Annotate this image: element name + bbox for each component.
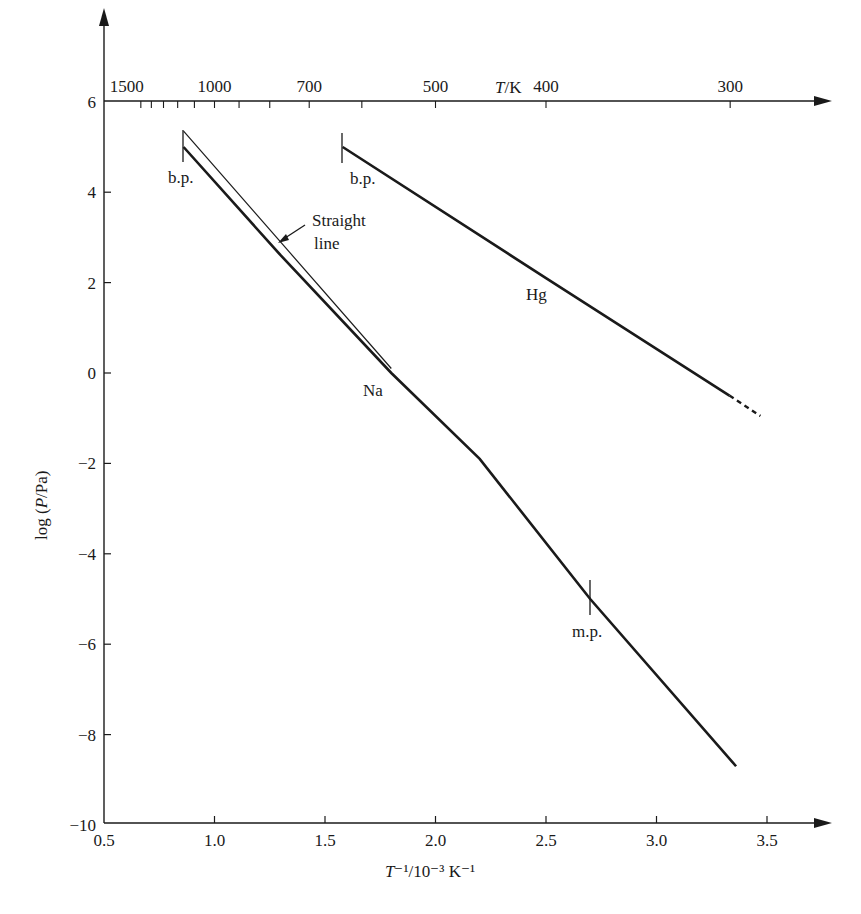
top-axis-label: T/K — [495, 78, 522, 97]
na-series-label: Na — [363, 381, 383, 400]
na-bp-label: b.p. — [168, 168, 194, 187]
top-tick-label: 300 — [717, 77, 743, 96]
top-tick-label: 400 — [533, 77, 559, 96]
vapor-pressure-chart: 6420−2−4−6−8−10 0.51.01.52.02.53.03.5 15… — [0, 0, 861, 914]
series — [184, 131, 761, 766]
x-tick-label: 0.5 — [93, 831, 114, 850]
straight-line-label-1: Straight — [312, 211, 366, 230]
x-tick-label: 2.5 — [535, 831, 556, 850]
y-tick-label: −8 — [78, 726, 96, 745]
x-tick-label: 2.0 — [425, 831, 446, 850]
na-mp-label: m.p. — [572, 622, 602, 641]
series-na — [184, 147, 737, 766]
x-tick-label: 1.0 — [204, 831, 225, 850]
series-straight-line — [184, 131, 392, 368]
y-tick-label: −2 — [78, 454, 96, 473]
y-tick-label: 0 — [88, 364, 97, 383]
top-axis-arrow-icon — [814, 96, 832, 106]
y-axis-arrow-icon — [99, 8, 109, 26]
top-tick-label: 1500 — [110, 77, 144, 96]
hg-bp-label: b.p. — [350, 169, 376, 188]
y-ticks: 6420−2−4−6−8−10 — [69, 93, 111, 835]
pointer-arrow-icon — [278, 234, 289, 243]
x-axis-label: T⁻¹/10⁻³ K⁻¹ — [385, 862, 475, 881]
y-tick-label: −6 — [78, 635, 96, 654]
x-tick-label: 3.5 — [756, 831, 777, 850]
y-tick-label: 2 — [88, 274, 97, 293]
top-ticks: 15001000700500400300 — [110, 77, 743, 108]
hg-series-label: Hg — [526, 285, 547, 304]
markers — [183, 130, 590, 615]
y-tick-label: 6 — [88, 93, 97, 112]
x-axis-arrow-icon — [814, 818, 832, 828]
series-hg — [343, 147, 730, 396]
y-tick-label: −10 — [69, 816, 96, 835]
top-tick-label: 500 — [423, 77, 449, 96]
y-tick-label: 4 — [88, 183, 97, 202]
series-hg-extrapolated — [729, 396, 760, 416]
x-tick-label: 3.0 — [646, 831, 667, 850]
x-ticks: 0.51.01.52.02.53.03.5 — [93, 816, 777, 850]
y-axis-label: log (P/Pa) — [32, 471, 51, 540]
top-tick-label: 1000 — [198, 77, 232, 96]
axes — [99, 8, 832, 828]
straight-line-label-2: line — [314, 234, 340, 253]
x-tick-label: 1.5 — [314, 831, 335, 850]
top-tick-label: 700 — [296, 77, 322, 96]
y-tick-label: −4 — [78, 545, 97, 564]
